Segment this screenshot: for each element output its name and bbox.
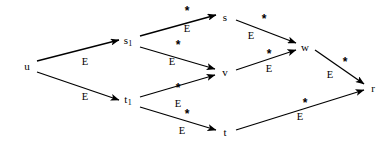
edge-label-star-w-r: * (343, 56, 348, 68)
node-label-subscript-t1: 1 (127, 99, 131, 108)
edge-label-relation-u-s1: E (82, 57, 88, 68)
node-label-text-w: w (301, 41, 309, 53)
node-label-text-r: r (371, 82, 375, 94)
edge-label-relation-t-r: E (297, 112, 303, 123)
edge-u-s1 (37, 40, 119, 61)
edge-u-t1 (37, 72, 119, 100)
node-s: s (223, 12, 227, 23)
edge-label-relation-w-r: E (327, 70, 333, 81)
node-label-subscript-s1: 1 (128, 40, 132, 49)
node-label-text-v: v (222, 66, 228, 78)
edge-s1-s (140, 15, 216, 36)
edge-label-star-s-w: * (262, 13, 267, 25)
node-label-text-u: u (24, 60, 30, 72)
graph-diagram: us1t1svtwr EE*E*E*E*E*E*E*E*E (0, 0, 392, 151)
edge-label-star-t1-v: * (176, 82, 181, 94)
node-label-text-t: t (223, 126, 226, 138)
edge-label-relation-s-w: E (248, 31, 254, 42)
node-v: v (222, 67, 228, 78)
node-s1: s1 (124, 35, 133, 48)
edge-label-star-s1-v: * (176, 39, 181, 51)
node-r: r (371, 83, 375, 94)
node-label-text-s: s (223, 11, 227, 23)
edge-label-relation-s1-v: E (169, 57, 175, 68)
edge-w-r (315, 50, 364, 84)
node-t1: t1 (124, 94, 131, 107)
node-t: t (223, 127, 226, 138)
edge-label-star-v-w: * (267, 48, 272, 60)
edge-label-relation-t1-v: E (175, 99, 181, 110)
edge-label-relation-s1-s: E (184, 24, 190, 35)
edge-label-star-t-r: * (303, 97, 308, 109)
node-u: u (24, 61, 30, 72)
edge-label-relation-t1-t: E (179, 126, 185, 137)
edge-line-group (37, 15, 364, 130)
edge-label-relation-v-w: E (266, 64, 272, 75)
node-w: w (301, 42, 309, 53)
edge-label-relation-u-t1: E (82, 92, 88, 103)
edge-label-star-t1-t: * (185, 108, 190, 120)
edge-label-star-s1-s: * (185, 5, 190, 17)
